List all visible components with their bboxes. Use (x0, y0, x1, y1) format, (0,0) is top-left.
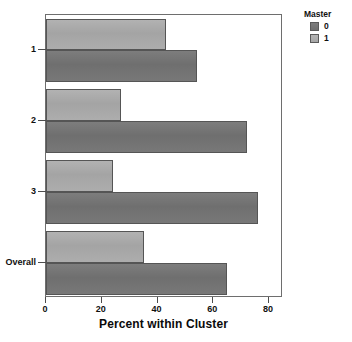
bar-2-series-1 (46, 89, 121, 121)
y-tick-3 (38, 191, 46, 192)
y-tick-Overall (38, 262, 46, 263)
legend-swatch-1-icon (310, 34, 319, 43)
x-tick-60 (212, 297, 213, 303)
y-tick-1 (38, 49, 46, 50)
legend-item-1[interactable]: 1 (310, 34, 348, 43)
bar-3-series-1 (46, 160, 113, 192)
x-tick-40 (157, 297, 158, 303)
bar-1-series-1 (46, 19, 166, 51)
bar-Overall-series-0 (46, 263, 227, 295)
bar-1-series-0 (46, 50, 197, 82)
legend-label-1: 1 (324, 34, 329, 43)
bar-Overall-series-1 (46, 231, 144, 263)
legend-title: Master (304, 9, 348, 19)
x-tick-label-0: 0 (33, 304, 57, 315)
bar-3-series-0 (46, 192, 258, 224)
bars-layer (46, 15, 281, 296)
x-tick-label-20: 20 (89, 304, 113, 315)
y-tick-label-2: 2 (31, 115, 36, 125)
plot-area (45, 14, 282, 297)
legend: Master 0 1 (296, 9, 348, 46)
legend-item-0[interactable]: 0 (310, 22, 348, 31)
legend-label-0: 0 (324, 22, 329, 31)
bar-2-series-0 (46, 121, 247, 153)
legend-swatch-0-icon (310, 22, 319, 31)
x-tick-80 (268, 297, 269, 303)
y-tick-label-Overall: Overall (5, 257, 36, 267)
x-tick-label-60: 60 (200, 304, 224, 315)
x-tick-label-40: 40 (145, 304, 169, 315)
x-tick-label-80: 80 (256, 304, 280, 315)
x-tick-20 (101, 297, 102, 303)
y-tick-label-1: 1 (31, 44, 36, 54)
bar-chart: 123Overall 020406080 Percent within Clus… (0, 0, 352, 342)
y-tick-label-3: 3 (31, 186, 36, 196)
x-axis-title: Percent within Cluster (45, 317, 282, 331)
y-tick-2 (38, 120, 46, 121)
x-tick-0 (45, 297, 46, 303)
